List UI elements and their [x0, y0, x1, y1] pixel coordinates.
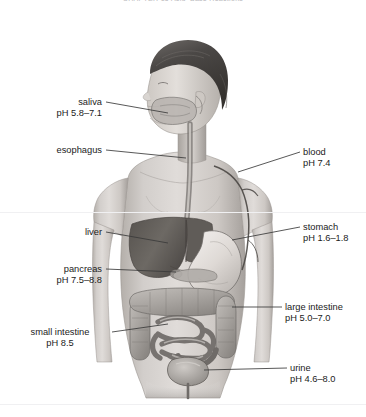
label-stomach-ph: pH 1.6–1.8: [303, 233, 365, 244]
label-liver: liver: [36, 227, 102, 238]
label-small-intestine-ph: pH 8.5: [12, 338, 108, 349]
label-stomach-name: stomach: [303, 222, 365, 233]
label-esophagus: esophagus: [16, 145, 102, 156]
label-pancreas-name: pancreas: [22, 264, 102, 275]
label-small-intestine: small intestine pH 8.5: [12, 327, 108, 350]
label-blood-name: blood: [303, 147, 363, 158]
label-urine: urine pH 4.6–8.0: [290, 363, 362, 386]
right-arm: [252, 222, 274, 362]
label-small-intestine-name: small intestine: [12, 327, 108, 338]
scan-artifact-lower: [0, 404, 366, 405]
body-illustration-svg: [0, 0, 366, 417]
scan-artifact-upper: [0, 212, 366, 213]
parotid-submandibular-gland: [152, 97, 197, 124]
label-saliva: saliva pH 5.8–7.1: [24, 97, 102, 120]
label-saliva-ph: pH 5.8–7.1: [24, 108, 102, 119]
label-pancreas: pancreas pH 7.5–8.8: [22, 264, 102, 287]
label-urine-ph: pH 4.6–8.0: [290, 374, 362, 385]
label-urine-name: urine: [290, 363, 362, 374]
label-pancreas-ph: pH 7.5–8.8: [22, 275, 102, 286]
label-stomach: stomach pH 1.6–1.8: [303, 222, 365, 245]
pancreas-organ: [173, 269, 217, 282]
label-saliva-name: saliva: [24, 97, 102, 108]
label-blood: blood pH 7.4: [303, 147, 363, 170]
label-esophagus-name: esophagus: [16, 145, 102, 156]
label-large-intestine: large intestine pH 5.0–7.0: [285, 302, 365, 325]
ph-anatomy-figure: CHAPTER 15 Acid–Base Reactions: [0, 0, 366, 417]
label-large-intestine-ph: pH 5.0–7.0: [285, 313, 365, 324]
anatomical-illustration: [0, 0, 366, 417]
label-blood-ph: pH 7.4: [303, 158, 363, 169]
label-liver-name: liver: [36, 227, 102, 238]
label-large-intestine-name: large intestine: [285, 302, 365, 313]
